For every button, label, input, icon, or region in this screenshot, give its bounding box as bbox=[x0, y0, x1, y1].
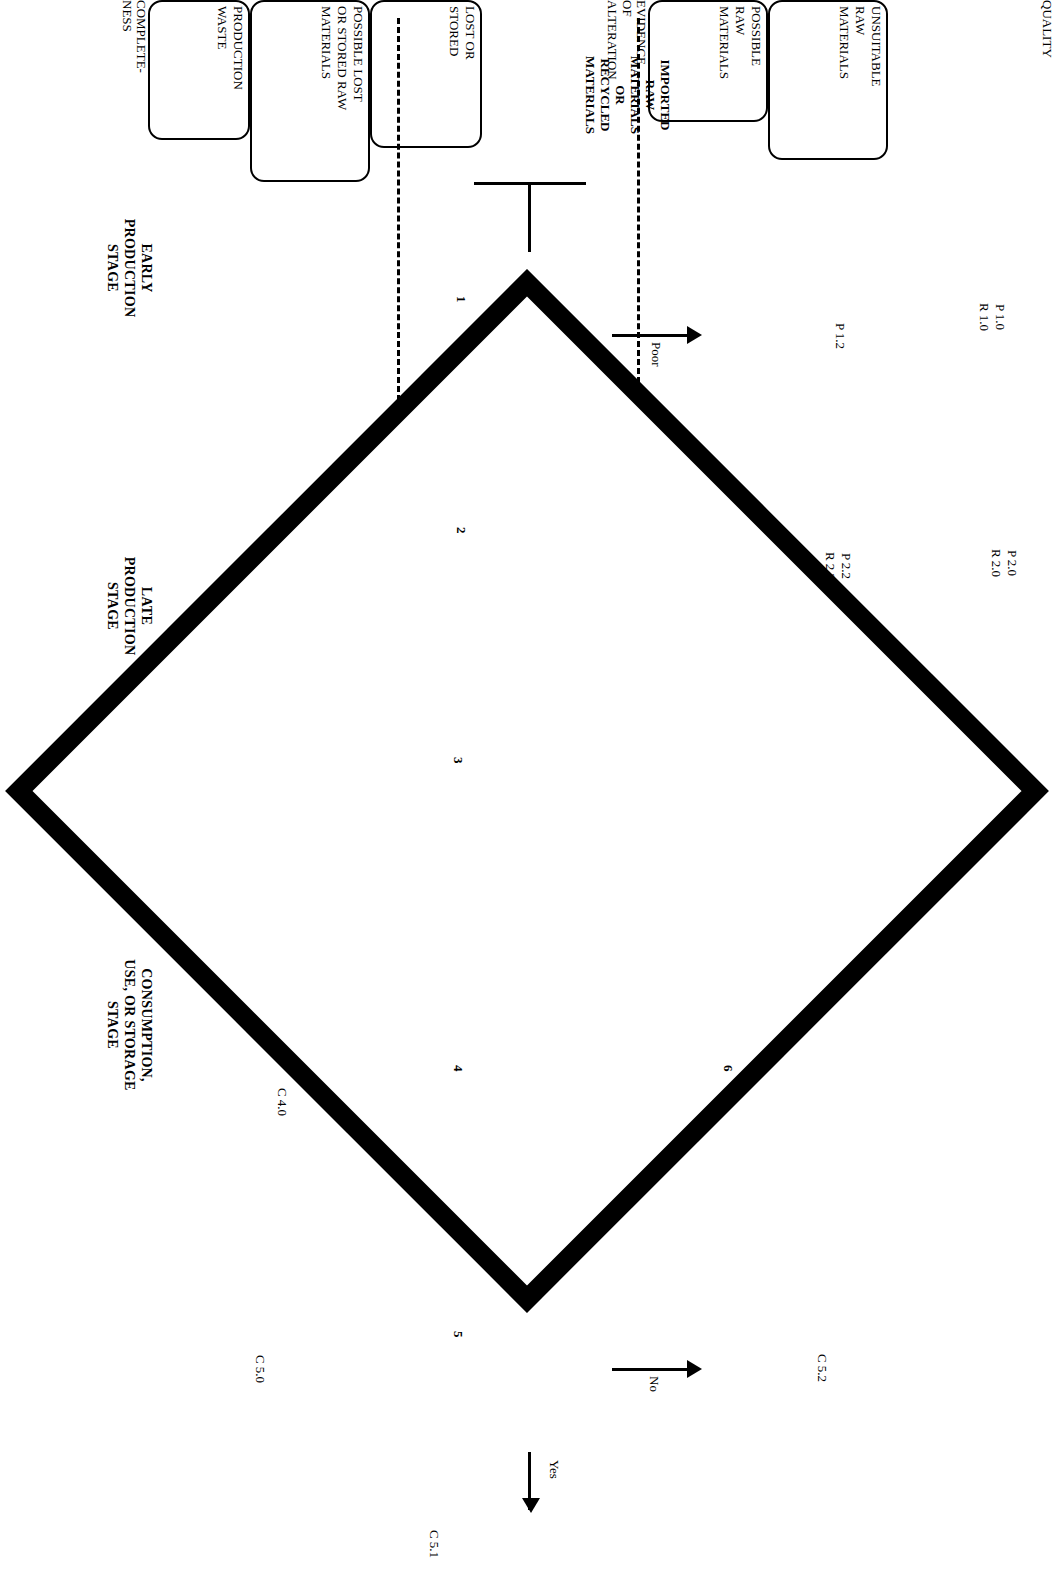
decision-3-number: 3 bbox=[450, 757, 466, 764]
edge-label-d5-yes: Yes bbox=[546, 1460, 562, 1479]
decision-1-number: 1 bbox=[453, 296, 469, 303]
outcome-discarded-items-code: C 5.2 bbox=[814, 1300, 830, 1436]
flowchart-canvas: EARLY PRODUCTION STAGE LATE PRODUCTION S… bbox=[0, 0, 1054, 1582]
diamond-shape-5 bbox=[0, 0, 1054, 1582]
edge-d5-no-line bbox=[612, 1368, 688, 1371]
outcome-broken-in-use-code: C 5.1 bbox=[426, 1504, 442, 1582]
decision-4-number: 4 bbox=[450, 1065, 466, 1072]
rotated-page-canvas: EARLY PRODUCTION STAGE LATE PRODUCTION S… bbox=[0, 0, 1054, 1582]
decision-2-number: 2 bbox=[453, 527, 469, 534]
decision-6-number: 6 bbox=[720, 1065, 736, 1072]
edge-d5-yes-arrowhead bbox=[522, 1498, 540, 1513]
edge-label-d5-no: No bbox=[646, 1376, 662, 1392]
decision-5-number: 5 bbox=[450, 1331, 466, 1338]
edge-d5-no-arrowhead bbox=[687, 1360, 702, 1378]
outcome-broken-in-use-or-discarded-code: C 5.0 bbox=[252, 1294, 268, 1444]
